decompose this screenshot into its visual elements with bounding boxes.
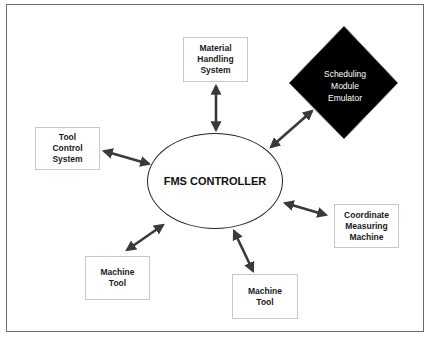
arrow-machine-tool-1	[127, 225, 163, 250]
node-label-line: Control	[52, 143, 82, 154]
coordinate-measuring-node: Coordinate Measuring Machine	[334, 204, 399, 248]
node-label-line: System	[52, 154, 82, 165]
node-label-line: Tool	[109, 278, 126, 289]
node-label-line: Tool	[59, 132, 76, 143]
node-label-line: Module	[300, 80, 390, 92]
fms-controller-node: FMS CONTROLLER	[147, 133, 283, 229]
arrow-coordinate	[285, 203, 326, 215]
machine-tool-1-node: Machine Tool	[85, 256, 150, 300]
node-label-line: System	[200, 65, 230, 76]
fms-controller-label: FMS CONTROLLER	[164, 175, 267, 187]
arrow-tool-control	[104, 151, 149, 164]
node-label-line: Machine	[100, 267, 134, 278]
tool-control-node: Tool Control System	[35, 127, 100, 170]
scheduling-emulator-node: Scheduling Module Emulator	[300, 68, 390, 104]
node-label-line: Emulator	[300, 92, 390, 104]
arrow-scheduling	[271, 111, 312, 147]
machine-tool-2-node: Machine Tool	[232, 274, 298, 319]
node-label-line: Machine	[349, 232, 383, 243]
node-label-line: Machine	[248, 286, 282, 297]
node-label-line: Handling	[197, 54, 233, 65]
node-label-line: Material	[199, 43, 231, 54]
node-label-line: Measuring	[345, 221, 388, 232]
node-label-line: Tool	[256, 297, 273, 308]
arrow-machine-tool-2	[234, 231, 253, 271]
node-label-line: Coordinate	[344, 210, 389, 221]
node-label-line: Scheduling	[300, 68, 390, 80]
material-handling-node: Material Handling System	[183, 37, 248, 82]
